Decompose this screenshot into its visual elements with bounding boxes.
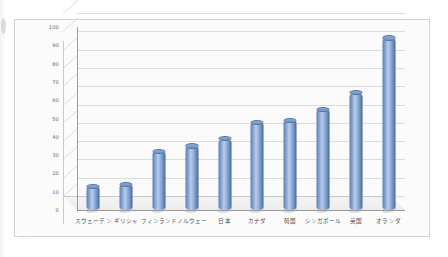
chart-bars (77, 27, 405, 210)
chart-frame: 0102030405060708090100 スウェーデンギリシャフィンランドノ… (14, 19, 430, 237)
bar-slot (241, 27, 274, 210)
y-axis-tick-label: 40 (41, 134, 59, 140)
bar-top-cap (349, 90, 362, 95)
chart-plot-wrapper: 0102030405060708090100 スウェーデンギリシャフィンランドノ… (15, 20, 429, 236)
bar-top-cap (185, 143, 198, 148)
bar-ノルウェー[interactable] (185, 146, 198, 210)
y-axis-tick-label: 100 (41, 24, 59, 30)
x-axis-label-韓国: 韓国 (284, 217, 296, 225)
bar-英国[interactable] (349, 93, 362, 210)
bar-slot (307, 27, 340, 210)
y-axis-tick-label: 90 (41, 42, 59, 48)
bar-top-cap (251, 120, 264, 125)
bar-slot (77, 27, 110, 210)
bar-オランダ[interactable] (382, 38, 395, 210)
bar-日本[interactable] (218, 139, 231, 210)
bar-top-cap (87, 184, 100, 189)
scan-artifact-left (1, 18, 6, 34)
bar-slot (208, 27, 241, 210)
y-axis-tick-label: 30 (41, 152, 59, 158)
bar-シンガポール[interactable] (316, 109, 329, 210)
y-axis-tick-label: 10 (41, 189, 59, 195)
bar-slot (274, 27, 307, 210)
y-axis-line (77, 27, 78, 210)
y-axis-tick-label: 50 (41, 116, 59, 122)
x-axis-label-オランダ: オランダ (376, 217, 400, 225)
bar-ギリシャ[interactable] (120, 184, 133, 210)
bar-韓国[interactable] (284, 120, 297, 210)
bar-フィンランド[interactable] (152, 151, 165, 210)
x-axis-label-英国: 英国 (350, 217, 362, 225)
bar-slot (143, 27, 176, 210)
bar-カナダ[interactable] (251, 122, 264, 210)
x-axis-label-カナダ: カナダ (248, 217, 266, 225)
y-axis-tick-label: 60 (41, 97, 59, 103)
chart-plot-area: 0102030405060708090100 (63, 27, 405, 217)
bar-top-cap (382, 35, 395, 40)
bar-top-cap (152, 149, 165, 154)
bar-slot (372, 27, 405, 210)
chart-axis-area: 0102030405060708090100 (63, 27, 405, 217)
bar-top-cap (120, 182, 133, 187)
bar-スウェーデン[interactable] (87, 186, 100, 210)
bar-slot (110, 27, 143, 210)
bar-slot (339, 27, 372, 210)
bar-top-cap (316, 107, 329, 112)
bar-top-cap (284, 118, 297, 123)
bar-top-cap (218, 136, 231, 141)
x-axis-label-スウェーデン: スウェーデン (75, 217, 112, 225)
y-axis-tick-label: 80 (41, 61, 59, 67)
x-axis-label-ノルウェー: ノルウェー (177, 217, 208, 225)
x-axis-label-ギリシャ: ギリシャ (114, 217, 138, 225)
bar-slot (175, 27, 208, 210)
x-axis-label-シンガポール: シンガポール (305, 217, 342, 225)
y-axis-tick-label: 0 (41, 207, 59, 213)
x-axis-line (77, 210, 405, 211)
x-axis-category-labels: スウェーデンギリシャフィンランドノルウェー日本カナダ韓国シンガポール英国オランダ (63, 217, 405, 233)
x-axis-label-フィンランド: フィンランド (141, 217, 178, 225)
gridline (77, 13, 405, 14)
y-axis-tick-label: 20 (41, 170, 59, 176)
x-axis-label-日本: 日本 (218, 217, 230, 225)
y-axis-tick-label: 70 (41, 79, 59, 85)
